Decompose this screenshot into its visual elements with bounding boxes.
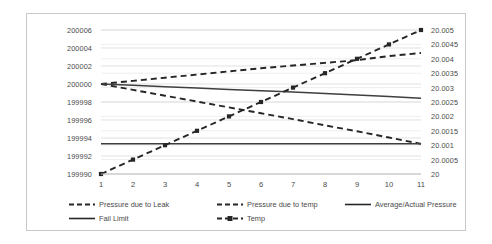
y-axis-left-tick: 199992 bbox=[27, 152, 92, 161]
x-axis-tick: 6 bbox=[251, 180, 271, 189]
x-axis-tick: 11 bbox=[411, 180, 431, 189]
x-axis-tick: 5 bbox=[219, 180, 239, 189]
y-axis-left-tick: 200000 bbox=[27, 80, 92, 89]
legend-label: Fail Limit bbox=[99, 215, 129, 222]
legend-item[interactable]: Pressure due to Leak bbox=[69, 200, 169, 209]
y-axis-right-tick: 20.0045 bbox=[431, 40, 458, 49]
y-axis-right-tick: 20.0015 bbox=[431, 127, 458, 136]
data-point-marker bbox=[131, 158, 135, 162]
x-axis-tick: 1 bbox=[91, 180, 111, 189]
plot-area: 2000062000042000022000001999981999961999… bbox=[27, 14, 467, 194]
y-axis-right-tick: 20.0035 bbox=[431, 69, 458, 78]
y-axis-left-tick: 199990 bbox=[27, 170, 92, 179]
legend-label: Pressure due to Leak bbox=[99, 201, 169, 208]
y-axis-left-tick: 199996 bbox=[27, 116, 92, 125]
y-axis-right-tick: 20.005 bbox=[431, 26, 454, 35]
series-line-average-actual-pressure bbox=[101, 84, 421, 98]
data-point-marker bbox=[163, 143, 167, 147]
data-point-marker bbox=[355, 57, 359, 61]
x-axis-tick: 10 bbox=[379, 180, 399, 189]
x-axis-tick: 3 bbox=[155, 180, 175, 189]
y-axis-right-tick: 20.0005 bbox=[431, 156, 458, 165]
solid-line-swatch bbox=[69, 214, 95, 223]
chart-legend: Pressure due to LeakPressure due to temp… bbox=[27, 194, 467, 230]
data-point-marker bbox=[419, 28, 423, 32]
y-axis-left-tick: 199994 bbox=[27, 134, 92, 143]
y-axis-right-tick: 20 bbox=[431, 170, 439, 179]
plot-svg bbox=[27, 14, 467, 194]
legend-item[interactable]: Temp bbox=[217, 214, 265, 223]
y-axis-left-tick: 200002 bbox=[27, 62, 92, 71]
y-axis-right-tick: 20.004 bbox=[431, 55, 454, 64]
data-point-marker bbox=[291, 86, 295, 90]
y-axis-left-tick: 200004 bbox=[27, 44, 92, 53]
dashed-marker-line-swatch bbox=[217, 214, 243, 223]
data-point-marker bbox=[323, 71, 327, 75]
data-point-marker bbox=[259, 100, 263, 104]
chart-container: 2000062000042000022000001999981999961999… bbox=[26, 13, 466, 231]
data-point-marker bbox=[227, 114, 231, 118]
dashed-line-swatch bbox=[69, 200, 95, 209]
legend-label: Pressure due to temp bbox=[247, 201, 318, 208]
series-line-pressure-due-to-leak bbox=[101, 84, 421, 144]
data-point-marker bbox=[195, 129, 199, 133]
x-axis-tick: 9 bbox=[347, 180, 367, 189]
y-axis-left-tick: 199998 bbox=[27, 98, 92, 107]
legend-label: Temp bbox=[247, 215, 265, 222]
x-axis-tick: 4 bbox=[187, 180, 207, 189]
y-axis-left-tick: 200006 bbox=[27, 26, 92, 35]
legend-item[interactable]: Fail Limit bbox=[69, 214, 129, 223]
legend-item[interactable]: Pressure due to temp bbox=[217, 200, 318, 209]
data-point-marker bbox=[387, 42, 391, 46]
series-line-pressure-due-to-temp bbox=[101, 53, 421, 84]
x-axis-tick: 8 bbox=[315, 180, 335, 189]
x-axis-tick: 7 bbox=[283, 180, 303, 189]
y-axis-right-tick: 20.0025 bbox=[431, 98, 458, 107]
legend-label: Average/Actual Pressure bbox=[375, 201, 457, 208]
legend-item[interactable]: Average/Actual Pressure bbox=[345, 200, 457, 209]
x-axis-tick: 2 bbox=[123, 180, 143, 189]
y-axis-right-tick: 20.001 bbox=[431, 141, 454, 150]
y-axis-right-tick: 20.003 bbox=[431, 84, 454, 93]
solid-line-swatch bbox=[345, 200, 371, 209]
y-axis-right-tick: 20.002 bbox=[431, 112, 454, 121]
dashed-line-swatch bbox=[217, 200, 243, 209]
